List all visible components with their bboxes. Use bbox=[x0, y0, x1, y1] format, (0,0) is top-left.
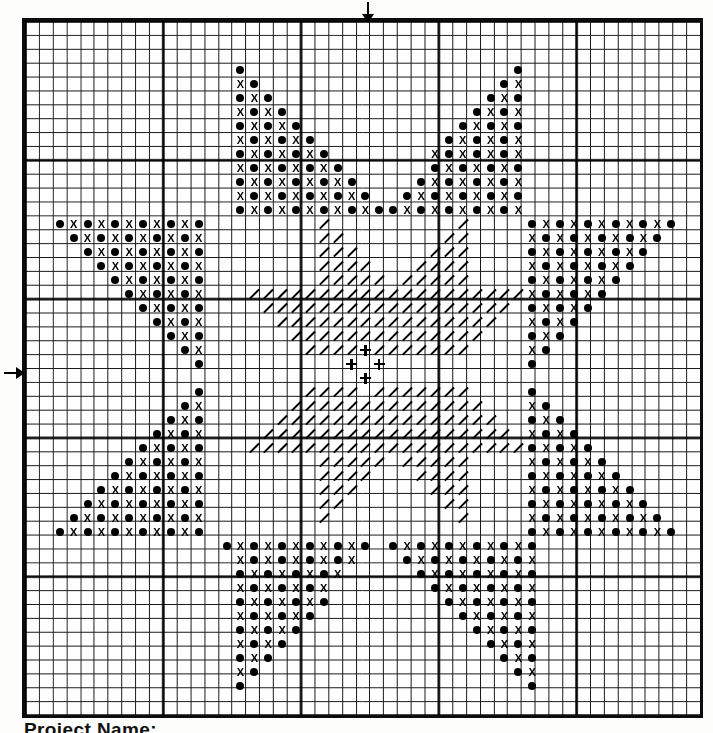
pattern-page: XXXXXXXXXXXXXXXXXXXXXXXXXXXXXXXXXXXXXXXX… bbox=[0, 0, 713, 733]
stitch-cell-cross-stitch: X bbox=[331, 567, 345, 581]
filled-circle-stitch-icon bbox=[514, 192, 522, 200]
diagonal-stitch-icon bbox=[374, 443, 384, 453]
stitch-cell-diagonal-stitch bbox=[414, 427, 428, 441]
cross-stitch-icon: X bbox=[306, 177, 313, 188]
filled-circle-stitch-icon bbox=[181, 262, 189, 270]
cross-stitch-icon: X bbox=[139, 513, 146, 524]
stitch-cell-diagonal-stitch bbox=[317, 511, 331, 525]
stitch-cell-diagonal-stitch bbox=[498, 287, 512, 301]
stitch-cell-cross-stitch: X bbox=[553, 315, 567, 329]
stitch-cell-cross-stitch: X bbox=[525, 259, 539, 273]
filled-circle-stitch-icon bbox=[111, 248, 119, 256]
stitch-cell-filled-circle-stitch bbox=[136, 469, 150, 483]
diagonal-stitch-icon bbox=[333, 443, 343, 453]
cross-stitch-chart[interactable]: XXXXXXXXXXXXXXXXXXXXXXXXXXXXXXXXXXXXXXXX… bbox=[22, 18, 703, 718]
cross-stitch-icon: X bbox=[167, 457, 174, 468]
stitch-cell-cross-stitch: X bbox=[178, 273, 192, 287]
stitch-cell-cross-stitch: X bbox=[525, 287, 539, 301]
stitch-cell-cross-stitch: X bbox=[484, 539, 498, 553]
stitch-cell-filled-circle-stitch bbox=[470, 203, 484, 217]
stitch-cell-cross-stitch: X bbox=[525, 483, 539, 497]
stitch-cell-diagonal-stitch bbox=[303, 427, 317, 441]
diagonal-stitch-icon bbox=[444, 345, 454, 355]
diagonal-stitch-icon bbox=[291, 415, 301, 425]
stitch-cell-filled-circle-stitch bbox=[233, 651, 247, 665]
cross-stitch-icon: X bbox=[153, 499, 160, 510]
stitch-cell-diagonal-stitch bbox=[456, 273, 470, 287]
cross-stitch-icon: X bbox=[181, 471, 188, 482]
stitch-cell-cross-stitch: X bbox=[428, 539, 442, 553]
stitch-cell-cross-stitch: X bbox=[623, 525, 637, 539]
stitch-cell-cross-stitch: X bbox=[525, 231, 539, 245]
cross-stitch-icon: X bbox=[612, 261, 619, 272]
stitch-cell-diagonal-stitch bbox=[400, 441, 414, 455]
filled-circle-stitch-icon bbox=[473, 626, 481, 634]
filled-circle-stitch-icon bbox=[514, 584, 522, 592]
stitch-cell-cross-stitch: X bbox=[164, 427, 178, 441]
stitch-cell-diagonal-stitch bbox=[345, 329, 359, 343]
filled-circle-stitch-icon bbox=[584, 472, 592, 480]
stitch-cell-filled-circle-stitch bbox=[331, 189, 345, 203]
diagonal-stitch-icon bbox=[388, 331, 398, 341]
stitch-cell-filled-circle-stitch bbox=[484, 161, 498, 175]
filled-circle-stitch-icon bbox=[598, 514, 606, 522]
filled-circle-stitch-icon bbox=[153, 514, 161, 522]
stitch-cell-diagonal-stitch bbox=[470, 301, 484, 315]
stitch-cell-filled-circle-stitch bbox=[150, 483, 164, 497]
stitch-cell-cross-stitch: X bbox=[525, 609, 539, 623]
stitch-cell-cross-stitch: X bbox=[192, 259, 206, 273]
stitch-cell-diagonal-stitch bbox=[359, 413, 373, 427]
filled-circle-stitch-icon bbox=[459, 192, 467, 200]
cross-stitch-icon: X bbox=[84, 233, 91, 244]
stitch-cell-filled-circle-stitch bbox=[303, 553, 317, 567]
stitch-cell-cross-stitch: X bbox=[247, 91, 261, 105]
stitch-cell-filled-circle-stitch bbox=[261, 91, 275, 105]
diagonal-stitch-icon bbox=[333, 247, 343, 257]
stitch-cell-filled-circle-stitch bbox=[275, 189, 289, 203]
filled-circle-stitch-icon bbox=[195, 304, 203, 312]
filled-circle-stitch-icon bbox=[528, 444, 536, 452]
stitch-cell-diagonal-stitch bbox=[372, 287, 386, 301]
stitch-cell-cross-stitch: X bbox=[136, 231, 150, 245]
filled-circle-stitch-icon bbox=[487, 164, 495, 172]
stitch-cell-diagonal-stitch bbox=[456, 217, 470, 231]
cross-stitch-icon: X bbox=[459, 597, 466, 608]
page-caption: Project Name: bbox=[24, 719, 157, 733]
filled-circle-stitch-icon bbox=[250, 164, 258, 172]
filled-circle-stitch-icon bbox=[320, 150, 328, 158]
stitch-cell-filled-circle-stitch bbox=[456, 119, 470, 133]
diagonal-stitch-icon bbox=[499, 429, 509, 439]
diagonal-stitch-icon bbox=[458, 275, 468, 285]
diagonal-stitch-icon bbox=[347, 401, 357, 411]
filled-circle-stitch-icon bbox=[278, 542, 286, 550]
stitch-cell-filled-circle-stitch bbox=[539, 511, 553, 525]
diagonal-stitch-icon bbox=[319, 485, 329, 495]
diagonal-stitch-icon bbox=[388, 387, 398, 397]
stitch-cell-filled-circle-stitch bbox=[442, 133, 456, 147]
cross-stitch-icon: X bbox=[278, 177, 285, 188]
diagonal-stitch-icon bbox=[402, 401, 412, 411]
stitch-cell-diagonal-stitch bbox=[414, 329, 428, 343]
stitch-cell-diagonal-stitch bbox=[331, 399, 345, 413]
stitch-cell-cross-stitch: X bbox=[470, 581, 484, 595]
stitch-cell-diagonal-stitch bbox=[456, 231, 470, 245]
stitch-cell-cross-stitch: X bbox=[317, 581, 331, 595]
stitch-cell-filled-circle-stitch bbox=[233, 203, 247, 217]
filled-circle-stitch-icon bbox=[500, 108, 508, 116]
stitch-cell-diagonal-stitch bbox=[317, 287, 331, 301]
stitch-cell-filled-circle-stitch bbox=[303, 581, 317, 595]
diagonal-stitch-icon bbox=[374, 275, 384, 285]
stitch-cell-diagonal-stitch bbox=[484, 315, 498, 329]
stitch-cell-diagonal-stitch bbox=[317, 329, 331, 343]
cross-stitch-icon: X bbox=[654, 527, 661, 538]
cross-stitch-icon: X bbox=[459, 177, 466, 188]
stitch-cell-filled-circle-stitch bbox=[192, 329, 206, 343]
diagonal-stitch-icon bbox=[291, 331, 301, 341]
filled-circle-stitch-icon bbox=[139, 304, 147, 312]
filled-circle-stitch-icon bbox=[195, 332, 203, 340]
stitch-cell-filled-circle-stitch bbox=[122, 259, 136, 273]
diagonal-stitch-icon bbox=[416, 289, 426, 299]
filled-circle-stitch-icon bbox=[195, 220, 203, 228]
filled-circle-stitch-icon bbox=[236, 626, 244, 634]
cross-stitch-icon: X bbox=[195, 457, 202, 468]
